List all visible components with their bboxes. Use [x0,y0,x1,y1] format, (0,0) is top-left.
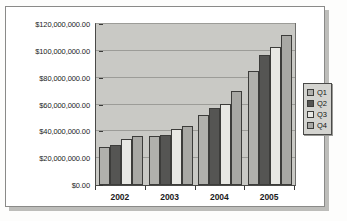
bar-2003-Q1[interactable] [149,136,160,185]
bar-2005-Q1[interactable] [248,71,259,185]
bar-2005-Q2[interactable] [259,55,270,185]
chart-object-frame[interactable]: $0.00$20,000,000.00$40,000,000.00$60,000… [5,6,325,207]
bar-2002-Q1[interactable] [99,147,110,185]
x-tick-label-2003: 2003 [160,192,179,202]
y-tick-label: $100,000,000.00 [35,46,90,55]
bar-2004-Q4[interactable] [231,91,242,185]
bar-2002-Q3[interactable] [121,139,132,185]
legend-swatch-icon-Q3 [307,111,314,118]
x-tick-mark [95,186,96,190]
bar-group-2005 [245,24,295,185]
legend-item-Q1[interactable]: Q1 [307,87,327,98]
bar-group-2004 [196,24,246,185]
legend-label-Q4: Q4 [317,121,327,130]
bar-2004-Q2[interactable] [209,108,220,185]
bar-group-2003 [146,24,196,185]
y-tick-label: $80,000,000.00 [39,73,90,82]
y-axis: $0.00$20,000,000.00$40,000,000.00$60,000… [14,23,90,186]
x-tick-mark [145,186,146,190]
x-tick-label-2002: 2002 [110,192,129,202]
bar-2003-Q3[interactable] [171,129,182,185]
scanned-page-background: $0.00$20,000,000.00$40,000,000.00$60,000… [0,0,347,221]
bar-2002-Q2[interactable] [110,145,121,185]
bar-2005-Q3[interactable] [270,47,281,185]
legend-label-Q3: Q3 [317,110,327,119]
bar-2004-Q1[interactable] [198,115,209,185]
x-tick-mark [195,186,196,190]
bar-2005-Q4[interactable] [281,35,292,185]
x-tick-label-2005: 2005 [260,192,279,202]
y-tick-label: $20,000,000.00 [39,154,90,163]
legend-label-Q1: Q1 [317,88,327,97]
x-tick-label-2004: 2004 [210,192,229,202]
y-tick-label: $0.00 [72,181,90,190]
chart-legend[interactable]: Q1Q2Q3Q4 [303,83,332,135]
bar-2002-Q4[interactable] [132,136,143,185]
y-tick-label: $60,000,000.00 [39,100,90,109]
y-tick-label: $120,000,000.00 [35,20,90,29]
bar-2003-Q2[interactable] [160,135,171,185]
bar-2003-Q4[interactable] [182,126,193,185]
bars-layer [96,24,295,185]
y-tick-mark [99,185,103,186]
x-tick-mark [294,186,295,190]
legend-item-Q2[interactable]: Q2 [307,98,327,109]
legend-label-Q2: Q2 [317,99,327,108]
x-axis: 2002200320042005 [95,189,296,203]
legend-swatch-icon-Q1 [307,89,314,96]
x-tick-mark [244,186,245,190]
legend-swatch-icon-Q4 [307,122,314,129]
legend-item-Q4[interactable]: Q4 [307,120,327,131]
bar-2004-Q3[interactable] [220,104,231,185]
legend-item-Q3[interactable]: Q3 [307,109,327,120]
legend-swatch-icon-Q2 [307,100,314,107]
bar-group-2002 [96,24,146,185]
y-tick-label: $40,000,000.00 [39,127,90,136]
